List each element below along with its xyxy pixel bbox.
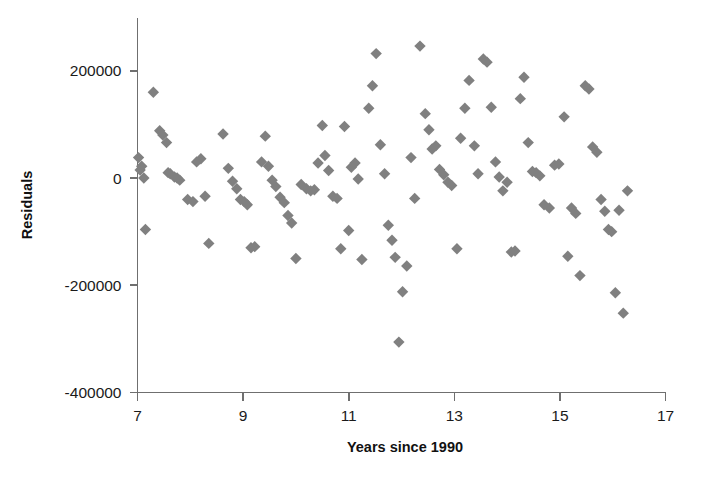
scatter-plot-figure: -400000-2000000200000 7911131517 Years s… <box>0 0 706 479</box>
x-axis-tick-label: 9 <box>239 407 248 424</box>
y-axis-tick-label: 200000 <box>70 62 122 79</box>
x-axis-tick-label: 17 <box>657 407 674 424</box>
x-axis-tick-label: 13 <box>446 407 463 424</box>
y-axis-tick-label: -400000 <box>65 384 122 401</box>
plot-svg: -400000-2000000200000 7911131517 Years s… <box>0 0 706 479</box>
x-axis-tick-label: 11 <box>341 407 357 424</box>
y-axis-title: Residuals <box>19 171 35 240</box>
x-axis-tick-label: 7 <box>133 407 142 424</box>
x-axis-title: Years since 1990 <box>347 439 463 455</box>
y-axis-tick-label: 0 <box>113 170 122 187</box>
y-axis-tick-label: -200000 <box>65 277 122 294</box>
x-axis-tick-label: 15 <box>551 407 568 424</box>
